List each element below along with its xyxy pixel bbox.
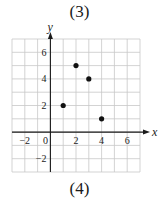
axes: xy (12, 20, 158, 172)
panel-label-bottom: (4) (0, 179, 159, 199)
y-tick-label: 2 (41, 100, 46, 111)
y-tick-label: 4 (41, 73, 46, 84)
grid (12, 39, 140, 172)
data-point (61, 103, 66, 108)
x-axis-arrow-icon (143, 130, 150, 135)
x-tick-label: −2 (19, 135, 30, 146)
x-tick-label: 2 (74, 135, 79, 146)
data-point (86, 76, 91, 81)
x-tick-label: 0 (43, 135, 48, 146)
x-tick-label: 4 (99, 135, 104, 146)
y-tick-label: 6 (41, 47, 46, 58)
x-axis-label: x (151, 125, 158, 139)
data-point (73, 63, 78, 68)
y-tick-label: −2 (36, 153, 47, 164)
x-tick-label: 6 (125, 135, 130, 146)
data-point (99, 116, 104, 121)
scatter-plot: xy −20246−2246 (0, 0, 159, 202)
y-axis-label: y (46, 20, 53, 34)
